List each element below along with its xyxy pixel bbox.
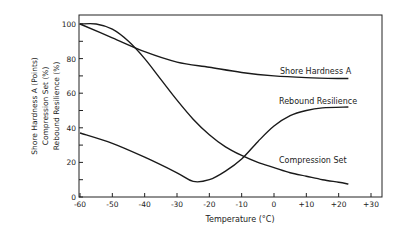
x-axis-ticks: -60-50-40-30-20-100+10+20+30 [74,193,379,209]
y-tick-label: 80 [66,55,76,64]
x-tick-label: -40 [139,200,151,209]
x-tick-label: -50 [106,200,118,209]
label-shore-hardness: Shore Hardness A [280,67,352,76]
x-axis-title: Temperature (°C) [204,215,274,224]
line-rebound-resilience [80,107,348,182]
y-tick-label: 20 [66,158,76,167]
x-tick-label: -20 [203,200,215,209]
y-tick-label: 40 [66,124,76,133]
x-tick-label: +30 [363,200,379,209]
label-compression-set: Compression Set [279,156,347,165]
x-tick-label: -30 [171,200,183,209]
y-label-compression: Compression Set (%) [41,67,50,146]
y-axis-title: Shore Hardness A (Points) Compression Se… [30,57,61,155]
x-tick-label: +20 [331,200,347,209]
y-label-rebound: Rebound Resilience (%) [52,62,61,151]
y-axis-ticks: 020406080100 [62,20,83,202]
y-tick-label: 0 [71,193,76,202]
y-tick-label: 60 [66,89,76,98]
label-rebound-resilience: Rebound Resilience [279,97,357,106]
chart: -60-50-40-30-20-100+10+20+30 02040608010… [0,0,400,240]
x-tick-label: +10 [298,200,314,209]
plot-frame [79,15,382,197]
y-tick-label: 100 [62,20,77,29]
x-tick-label: 0 [272,200,277,209]
chart-canvas: -60-50-40-30-20-100+10+20+30 02040608010… [0,0,400,240]
y-label-shore: Shore Hardness A (Points) [30,57,39,155]
x-tick-label: -10 [236,200,248,209]
